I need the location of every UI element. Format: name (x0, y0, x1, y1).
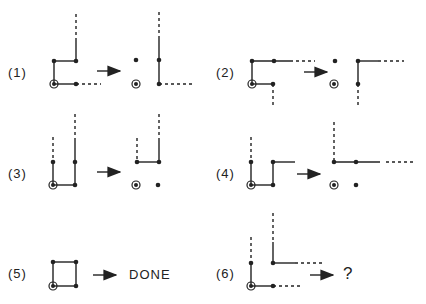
panel-5-square (53, 262, 76, 286)
panel-3-after (137, 114, 159, 162)
panel-1-label: (1) (8, 65, 27, 80)
panel-2-label: (2) (216, 65, 235, 80)
panel-1-before (54, 14, 101, 84)
panel-4-label: (4) (216, 166, 235, 181)
panel-2-after (358, 61, 404, 108)
panel-3-before (53, 114, 75, 185)
diagram-canvas (0, 0, 426, 304)
panel-4-after (334, 122, 416, 162)
panel-6-label: (6) (216, 266, 235, 281)
nodes (51, 58, 361, 289)
origin-nodes (49, 80, 338, 290)
panel-6-result: ? (343, 264, 353, 284)
panel-5-result: DONE (129, 267, 171, 282)
panel-1-after (159, 12, 194, 84)
panel-5-label: (5) (8, 266, 27, 281)
panel-3-label: (3) (8, 166, 27, 181)
panel-2-before (252, 61, 315, 108)
